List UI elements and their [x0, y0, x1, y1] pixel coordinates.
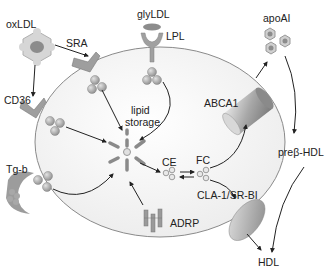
label-apoai: apoAI [263, 13, 290, 24]
arrow-cla1-to-hdl [247, 234, 261, 250]
label-sra: SRA [66, 38, 88, 49]
arrow-oxldl-to-cd36 [33, 65, 35, 96]
arrow-prebeta-to-hdl [272, 167, 304, 252]
label-glyldl: glyLDL [137, 9, 170, 20]
label-ce: CE [162, 157, 177, 168]
label-fc: FC [196, 155, 210, 166]
tgb-crescent-icon [6, 172, 34, 214]
oxldl-particle-icon [19, 28, 55, 66]
label-hdl: HDL [258, 257, 279, 268]
diagram-canvas [0, 0, 328, 275]
label-lpl: LPL [166, 31, 185, 42]
label-lipid-storage-2: storage [125, 117, 160, 128]
label-adrp: ADRP [170, 218, 199, 229]
label-prebeta-hdl: preβ-HDL [278, 147, 324, 158]
lipid-metabolism-diagram: oxLDL SRA glyLDL LPL apoAI CD36 lipid st… [0, 0, 328, 275]
arrow-apoai-to-prebeta-hdl [285, 56, 296, 133]
arrow-abca1-to-apoai [256, 62, 267, 78]
label-lipid-storage-1: lipid [131, 105, 150, 116]
lipid-storage-core [124, 149, 131, 156]
apoai-particles-icon [265, 28, 290, 54]
label-oxldl: oxLDL [6, 19, 36, 30]
label-cla1-srbi: CLA-1/SR-BI [197, 190, 258, 201]
glyldl-particle-icon [143, 24, 161, 31]
label-abca1: ABCA1 [204, 98, 238, 109]
label-tgb: Tg-b [6, 164, 28, 175]
label-cd36: CD36 [4, 95, 31, 106]
